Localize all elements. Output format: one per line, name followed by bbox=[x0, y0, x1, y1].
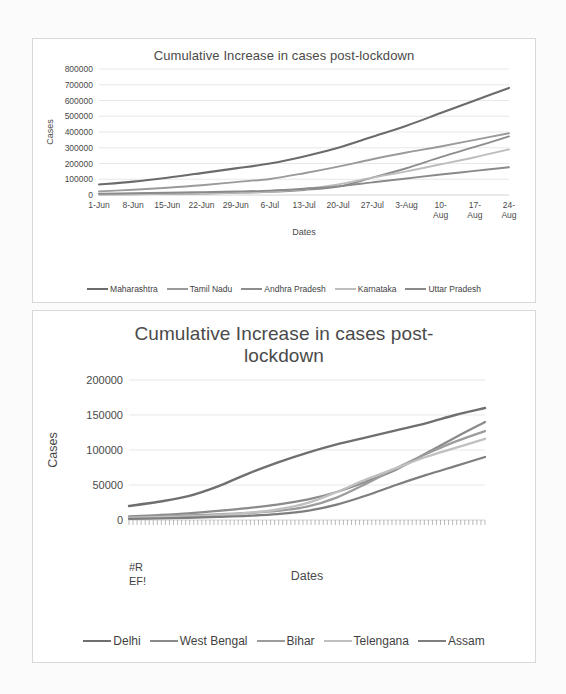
chart-1-xtick-label: 6-Jul bbox=[261, 200, 280, 210]
chart-1-xaxis-title: Dates bbox=[292, 227, 316, 237]
legend-line-swatch-icon bbox=[87, 288, 108, 290]
legend-item-label: Bihar bbox=[287, 634, 315, 648]
chart-1-xtick-label: 13-Jul bbox=[292, 200, 315, 210]
legend-line-swatch-icon bbox=[83, 640, 111, 642]
chart-2-ytick-label: 150000 bbox=[86, 409, 123, 421]
chart-2-series-line bbox=[129, 457, 485, 519]
legend-item-west-bengal[interactable]: West Bengal bbox=[150, 634, 248, 648]
legend-item-label: Andhra Pradesh bbox=[264, 284, 325, 294]
legend-item-andhra-pradesh[interactable]: Andhra Pradesh bbox=[241, 284, 325, 294]
legend-line-swatch-icon bbox=[257, 640, 285, 642]
chart-1-ytick-label: 700000 bbox=[65, 80, 94, 90]
document-page: Cumulative Increase in cases post-lockdo… bbox=[0, 0, 566, 694]
chart-2-ytick-label: 200000 bbox=[86, 374, 123, 386]
chart-1-ytick-label: 0 bbox=[88, 190, 93, 200]
legend-item-label: West Bengal bbox=[180, 634, 248, 648]
chart-2-title-line-2: lockdown bbox=[33, 345, 535, 367]
legend-item-telengana[interactable]: Telengana bbox=[324, 634, 409, 648]
chart-2-legend: DelhiWest BengalBiharTelenganaAssam bbox=[33, 634, 535, 648]
legend-item-maharashtra[interactable]: Maharashtra bbox=[87, 284, 158, 294]
chart-1-ytick-label: 200000 bbox=[65, 159, 94, 169]
legend-item-label: Telengana bbox=[354, 634, 409, 648]
chart-1-xtick-label: 3-Aug bbox=[395, 200, 418, 210]
chart-1-ytick-label: 400000 bbox=[65, 127, 94, 137]
chart-1-plot: 8000007000006000005000004000003000002000… bbox=[33, 63, 535, 248]
legend-line-swatch-icon bbox=[405, 288, 426, 290]
legend-line-swatch-icon bbox=[167, 288, 188, 290]
chart-1-title: Cumulative Increase in cases post-lockdo… bbox=[33, 39, 535, 63]
chart-2-plot: 200000150000100000500000DatesCases bbox=[33, 368, 535, 593]
legend-item-label: Karnataka bbox=[358, 284, 397, 294]
legend-item-assam[interactable]: Assam bbox=[418, 634, 485, 648]
legend-item-karnataka[interactable]: Karnataka bbox=[335, 284, 397, 294]
chart-1-xtick-label: 29-Jun bbox=[223, 200, 249, 210]
ref-error-line-1: #R bbox=[129, 561, 153, 575]
chart-1-xtick-label: 20-Jul bbox=[327, 200, 350, 210]
chart-1-xtick-label: 10-Aug bbox=[433, 200, 448, 220]
chart-2-xaxis-title: Dates bbox=[291, 569, 324, 583]
chart-1-xtick-label: 27-Jul bbox=[361, 200, 384, 210]
legend-item-label: Uttar Pradesh bbox=[428, 284, 480, 294]
chart-1-xtick-label: 17-Aug bbox=[467, 200, 482, 220]
chart-2-x-axis-ref-error: #R EF! bbox=[129, 561, 153, 589]
chart-1-xtick-label: 15-Jun bbox=[154, 200, 180, 210]
legend-line-swatch-icon bbox=[241, 288, 262, 290]
legend-line-swatch-icon bbox=[418, 640, 446, 642]
legend-line-swatch-icon bbox=[324, 640, 352, 642]
chart-1-series-line bbox=[99, 88, 509, 185]
chart-2-ytick-label: 100000 bbox=[86, 444, 123, 456]
legend-item-label: Tamil Nadu bbox=[190, 284, 233, 294]
chart-1-xtick-label: 24-Aug bbox=[501, 200, 516, 220]
chart-1-legend: MaharashtraTamil NaduAndhra PradeshKarna… bbox=[33, 284, 535, 294]
chart-1-ytick-label: 800000 bbox=[65, 64, 94, 74]
legend-item-label: Maharashtra bbox=[110, 284, 158, 294]
chart-1-xtick-label: 22-Jun bbox=[189, 200, 215, 210]
legend-item-label: Delhi bbox=[113, 634, 140, 648]
chart-2-series-line bbox=[129, 408, 485, 506]
chart-1-container: Cumulative Increase in cases post-lockdo… bbox=[32, 38, 536, 303]
chart-1-ytick-label: 300000 bbox=[65, 143, 94, 153]
chart-2-ytick-label: 0 bbox=[117, 514, 123, 526]
legend-line-swatch-icon bbox=[150, 640, 178, 642]
ref-error-line-2: EF! bbox=[129, 575, 153, 589]
chart-1-ytick-label: 500000 bbox=[65, 112, 94, 122]
legend-item-label: Assam bbox=[448, 634, 485, 648]
legend-item-tamil-nadu[interactable]: Tamil Nadu bbox=[167, 284, 233, 294]
chart-1-yaxis-title: Cases bbox=[45, 119, 55, 145]
legend-item-delhi[interactable]: Delhi bbox=[83, 634, 140, 648]
chart-2-yaxis-title: Cases bbox=[46, 432, 60, 467]
chart-1-xtick-label: 8-Jun bbox=[123, 200, 145, 210]
chart-2-title: Cumulative Increase in cases post- lockd… bbox=[33, 311, 535, 368]
chart-2-title-line-1: Cumulative Increase in cases post- bbox=[33, 323, 535, 345]
chart-2-container: Cumulative Increase in cases post- lockd… bbox=[32, 310, 536, 663]
legend-line-swatch-icon bbox=[335, 288, 356, 290]
chart-2-ytick-label: 50000 bbox=[92, 479, 123, 491]
chart-1-ytick-label: 100000 bbox=[65, 175, 94, 185]
legend-item-uttar-pradesh[interactable]: Uttar Pradesh bbox=[405, 284, 480, 294]
chart-1-xtick-label: 1-Jun bbox=[88, 200, 110, 210]
chart-1-ytick-label: 600000 bbox=[65, 96, 94, 106]
legend-item-bihar[interactable]: Bihar bbox=[257, 634, 315, 648]
